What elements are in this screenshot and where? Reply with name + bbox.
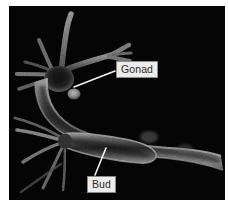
body-swelling-b — [177, 144, 193, 154]
bud-hypostome — [58, 134, 72, 149]
hypostome — [44, 66, 74, 92]
micrograph-plate — [9, 6, 225, 200]
gonad-group — [68, 89, 81, 100]
callout-label-bud: Bud — [87, 176, 116, 193]
hydra-figure: Gonad Bud — [0, 0, 228, 215]
body-swelling-a — [140, 131, 158, 143]
gonad-bump — [68, 89, 81, 100]
callout-label-gonad: Gonad — [116, 61, 158, 78]
hydra-micrograph-image — [9, 6, 225, 200]
